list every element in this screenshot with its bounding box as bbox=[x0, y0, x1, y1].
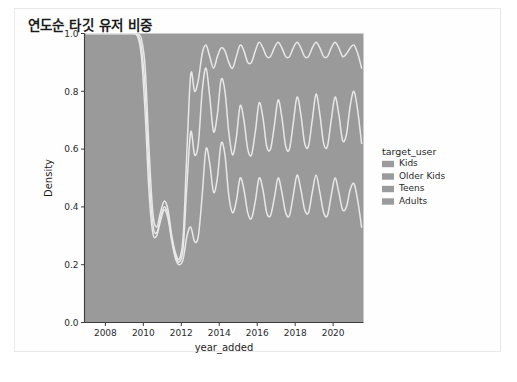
y-axis-ticks: 0.00.20.40.60.81.0 bbox=[64, 29, 84, 328]
x-axis-title: year_added bbox=[195, 342, 254, 354]
figure-canvas: 연도순 타깃 유저 비중 0.00.20.40.60.81.0200820102… bbox=[0, 0, 517, 382]
y-tick-label: 0.0 bbox=[64, 318, 79, 328]
plot-area-background bbox=[85, 34, 364, 323]
x-tick-label: 2016 bbox=[246, 328, 269, 338]
legend-swatch bbox=[382, 161, 394, 167]
y-tick-label: 0.6 bbox=[64, 144, 79, 154]
y-tick-label: 0.2 bbox=[64, 260, 78, 270]
legend-label: Adults bbox=[399, 196, 427, 206]
y-tick-label: 0.8 bbox=[64, 87, 79, 97]
x-tick-label: 2008 bbox=[94, 328, 117, 338]
legend-swatch bbox=[382, 173, 394, 179]
legend-item-kids[interactable]: Kids bbox=[382, 158, 418, 168]
y-axis-title: Density bbox=[43, 159, 54, 197]
x-axis-ticks: 2008201020122014201620182020 bbox=[94, 323, 345, 339]
legend-item-adults[interactable]: Adults bbox=[382, 196, 427, 206]
legend-item-teens[interactable]: Teens bbox=[382, 183, 425, 193]
legend-swatch bbox=[382, 186, 394, 192]
density-plot: 0.00.20.40.60.81.02008201020122014201620… bbox=[0, 0, 517, 382]
y-tick-label: 0.4 bbox=[64, 202, 79, 212]
legend-label: Older Kids bbox=[399, 171, 446, 181]
legend-label: Teens bbox=[398, 183, 425, 193]
x-tick-label: 2010 bbox=[132, 328, 155, 338]
y-tick-label: 1.0 bbox=[64, 29, 79, 39]
legend-swatch bbox=[382, 198, 394, 204]
legend-item-older-kids[interactable]: Older Kids bbox=[382, 171, 446, 181]
legend-title: target_user bbox=[382, 146, 436, 157]
x-tick-label: 2020 bbox=[322, 328, 345, 338]
legend: target_userKidsOlder KidsTeensAdults bbox=[382, 146, 446, 206]
x-tick-label: 2018 bbox=[284, 328, 307, 338]
x-tick-label: 2012 bbox=[170, 328, 193, 338]
legend-label: Kids bbox=[399, 158, 418, 168]
x-tick-label: 2014 bbox=[208, 328, 231, 338]
